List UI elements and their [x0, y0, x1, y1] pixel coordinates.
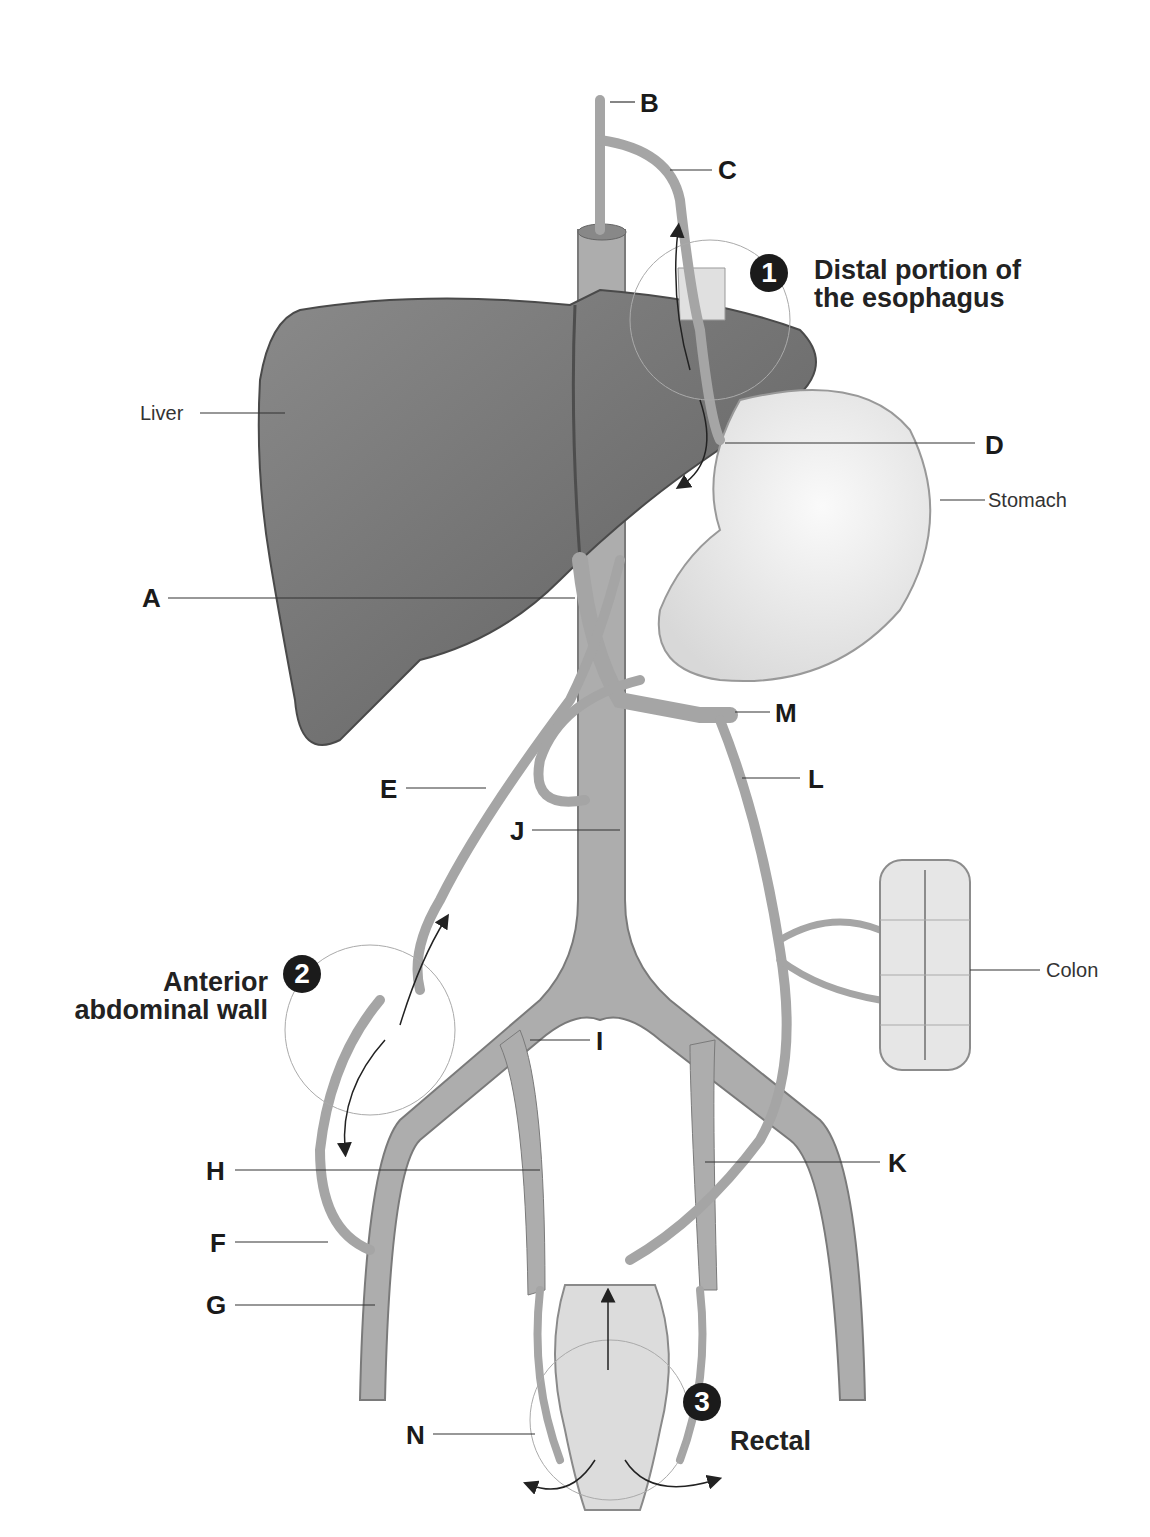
colon-shape: [880, 860, 970, 1070]
label-l: L: [808, 764, 824, 795]
label-b: B: [640, 88, 659, 119]
site-1-badge: 1: [750, 254, 788, 292]
site-3-label: Rectal: [730, 1427, 811, 1455]
label-g: G: [206, 1290, 226, 1321]
label-f: F: [210, 1228, 226, 1259]
rectum-shape: [555, 1285, 669, 1510]
site-2-label-line1: Anterior: [18, 968, 268, 996]
label-h: H: [206, 1156, 225, 1187]
label-a: A: [142, 583, 161, 614]
label-liver: Liver: [140, 402, 183, 425]
site-2-badge: 2: [283, 955, 321, 993]
site-3-badge: 3: [683, 1383, 721, 1421]
site-1-label-line1: Distal portion of: [814, 256, 1021, 284]
label-stomach: Stomach: [988, 489, 1067, 512]
site-1-label-line2: the esophagus: [814, 284, 1021, 312]
label-e: E: [380, 774, 397, 805]
label-n: N: [406, 1420, 425, 1451]
site-1-label: Distal portion of the esophagus: [814, 256, 1021, 312]
label-j: J: [510, 816, 524, 847]
label-c: C: [718, 155, 737, 186]
anatomy-illustration: [0, 0, 1150, 1537]
label-i: I: [596, 1026, 603, 1057]
label-d: D: [985, 430, 1004, 461]
site-2-label-line2: abdominal wall: [18, 996, 268, 1024]
label-k: K: [888, 1148, 907, 1179]
label-colon: Colon: [1046, 959, 1098, 982]
label-m: M: [775, 698, 797, 729]
site-2-label: Anterior abdominal wall: [18, 968, 268, 1024]
